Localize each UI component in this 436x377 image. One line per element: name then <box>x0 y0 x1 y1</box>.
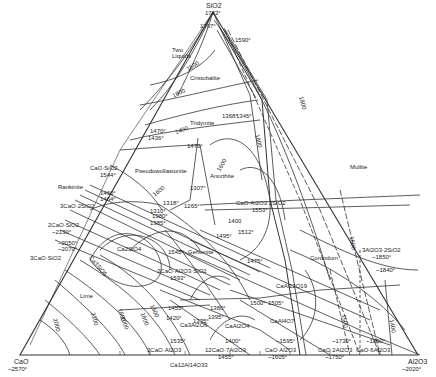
temp-label: 1335° <box>193 318 209 324</box>
temp-label: 1420° <box>166 315 182 321</box>
field-caal4o7: CaAl4O7 <box>270 318 294 324</box>
temp-label: 1590° <box>235 37 251 43</box>
field-caal12o19: CaAl12O19 <box>276 283 307 289</box>
field-cristobalite: Cristobalite <box>190 75 220 81</box>
field-caal2o4: CaAl2O4 <box>225 323 249 329</box>
temp-label: 1380° <box>152 213 168 219</box>
field-pseudowollastonite: Pseudowollastonite <box>135 168 187 174</box>
compound-ca-temp: ~1605° <box>268 354 287 360</box>
field-ca12al14o33: Ca12Al14O33 <box>170 362 208 368</box>
temp-label: 1500° <box>250 300 266 306</box>
compound-cs: CaO·SiO2 <box>90 165 118 171</box>
compound-cas2: CaO·Al2O3·2SiO2 <box>236 200 286 206</box>
temp-label: 1380° <box>210 305 226 311</box>
temp-label: 1307° <box>190 185 206 191</box>
temp-label: 1475° <box>247 258 263 264</box>
temp-label: 1535° <box>170 338 186 344</box>
temp-label: ~1595° <box>276 338 295 344</box>
field-gehlenite: Gehlenite <box>188 249 214 255</box>
temp-label: 1265° <box>184 203 200 209</box>
temp-label: 1395° <box>208 314 224 320</box>
temp-label: ~1890° <box>366 338 385 344</box>
compound-a3s2: 3Al2O3·2SiO2 <box>362 247 401 253</box>
compound-a3s2-temp: ~1850° <box>372 254 391 260</box>
temp-label: 1470° <box>150 128 166 134</box>
compound-cas2-temp: 1553° <box>252 207 268 213</box>
compound-c3s2: 3CaO·2SiO2 <box>60 203 94 209</box>
temp-label: 1400° <box>225 338 241 344</box>
vertex-al2o3-label: Al2O3 <box>408 358 427 365</box>
vertex-sio2-label: SiO2 <box>206 2 222 9</box>
field-tridymite: Tridymite <box>190 120 214 126</box>
temp-label: 1545° <box>168 249 184 255</box>
compound-c2as: 2CaO·Al2O3·SiO2 <box>157 268 207 274</box>
compound-c3a: 3CaO·Al2O3 <box>147 347 181 353</box>
vertex-al2o3-temp: ~2020° <box>402 366 421 372</box>
compound-c12a7: 12CaO·7Al2O3 <box>205 347 246 353</box>
compound-c2s-temp: ~2130° <box>52 229 71 235</box>
temp-label: 1512° <box>238 229 254 235</box>
vertex-sio2-temp: 1723° <box>205 10 221 16</box>
compound-c3s2-temp: 1460° 1464° <box>100 190 116 202</box>
temp-label: ~1840° <box>376 267 395 273</box>
temp-label: 1385° <box>150 220 166 226</box>
compound-ca: CaO·Al2O3 <box>265 347 296 353</box>
compound-c12a7-temp: 1455° <box>218 354 234 360</box>
isotherm-label: 1400 <box>228 218 241 224</box>
temp-label: 1318° <box>163 200 179 206</box>
temp-label: 1455° <box>168 305 184 311</box>
compound-ca2-temp: ~1750° <box>325 354 344 360</box>
compound-ca6: CaO·6Al2O3 <box>356 347 390 353</box>
field-two-liquids: Two Liquids <box>172 47 202 59</box>
field-corundum: Corundum <box>310 255 338 261</box>
vertex-cao-label: CaO <box>14 358 28 365</box>
compound-c2s: 2CaO·SiO2 <box>48 222 79 228</box>
temp-label: 1436° <box>148 135 164 141</box>
field-rankinite: Rankinite <box>58 184 83 190</box>
temp-label: ~1730° <box>332 338 351 344</box>
field-lime: Lime <box>80 293 93 299</box>
temp-label: 1707° <box>200 23 216 29</box>
temp-label: 1505° <box>268 300 284 306</box>
compound-c3s: 3CaO·SiO2 <box>30 255 61 261</box>
compound-cs-temp: 1544° <box>100 172 116 178</box>
temp-label: 1470° <box>187 143 203 149</box>
vertex-cao-temp: ~2570° <box>8 366 27 372</box>
compound-c2as-temp: 1593° <box>170 275 186 281</box>
field-ca2sio4: Ca2SiO4 <box>117 246 141 252</box>
compound-c3s-temp: ~2050° ~2070° <box>58 240 80 252</box>
field-mullite: Mullite <box>350 164 367 170</box>
compound-ca2: CaO·2Al2O3 <box>318 347 352 353</box>
temp-label: 1345° <box>236 113 252 119</box>
field-anorthite: Anorthite <box>210 173 234 179</box>
temp-label: 1495° <box>216 233 232 239</box>
